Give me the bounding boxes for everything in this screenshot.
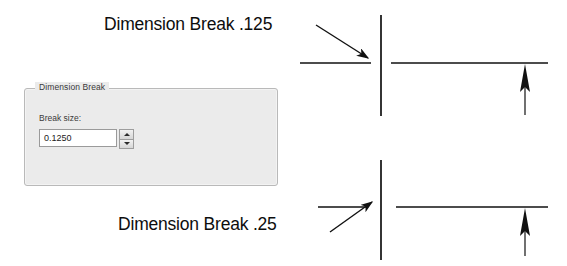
- top-callout-label: Dimension Break .125: [104, 14, 272, 35]
- chevron-down-icon: [124, 142, 130, 145]
- bottom-callout-label: Dimension Break .25: [118, 214, 277, 235]
- groupbox-title: Dimension Break: [35, 82, 109, 92]
- dimension-break-groupbox: Dimension Break Break size: 0.1250: [24, 88, 278, 186]
- top-dimension-drawing: [300, 15, 548, 116]
- bottom-dimension-drawing: [318, 160, 548, 260]
- break-size-label: Break size:: [39, 113, 81, 123]
- spinner-up-button[interactable]: [119, 129, 134, 139]
- top-callout-leader-arrow: [316, 25, 368, 58]
- break-size-input[interactable]: 0.1250: [39, 129, 117, 147]
- break-size-stepper[interactable]: 0.1250: [39, 129, 139, 149]
- chevron-up-icon: [124, 133, 130, 136]
- spinner-down-button[interactable]: [119, 139, 134, 150]
- break-size-spin-buttons[interactable]: [119, 129, 134, 149]
- figure-canvas: Dimension Break .125 Dimension Break .25…: [0, 0, 567, 266]
